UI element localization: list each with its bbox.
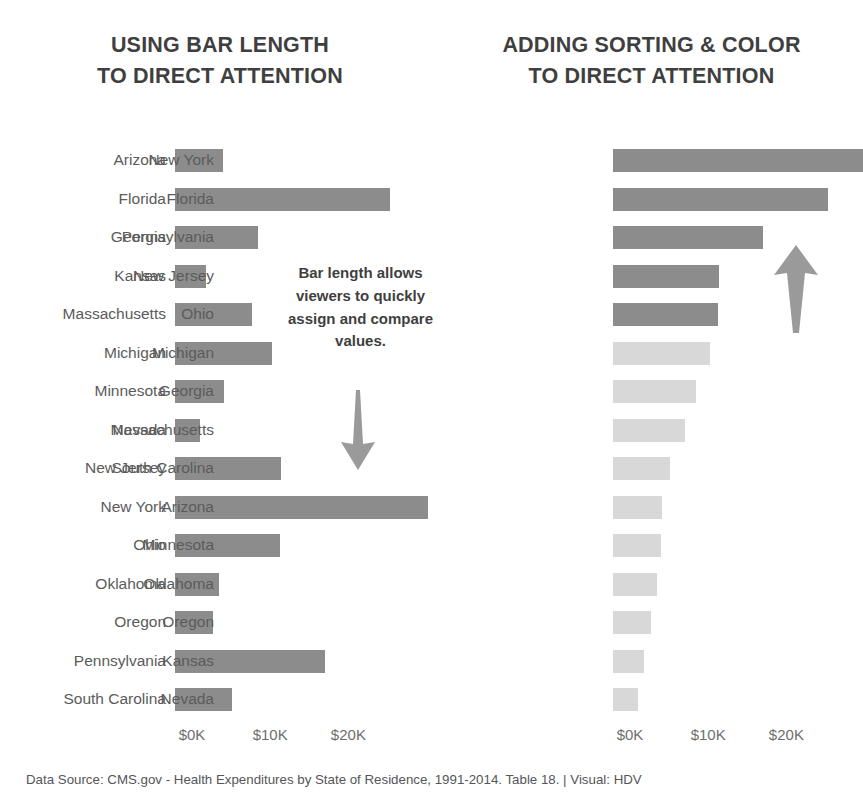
bar-category-label-arizona: Arizona [48, 488, 214, 527]
bar-category-label-kansas: Kansas [48, 642, 214, 681]
bar-florida [613, 188, 828, 211]
annotation-left-line2: viewers to quickly [278, 285, 443, 308]
x-axis-left: $0K$10K$20K [0, 726, 440, 752]
bar-row: Florida [440, 180, 863, 219]
bar-ohio [613, 303, 718, 326]
x-tick-left-0: $0K [179, 726, 206, 743]
bar-category-label-new-jersey: New Jersey [48, 257, 214, 296]
bar-category-label-ohio: Ohio [48, 295, 214, 334]
x-tick-right-0: $0K [617, 726, 644, 743]
bar-georgia [613, 380, 696, 403]
x-tick-right-1: $10K [691, 726, 726, 743]
annotation-left-line1: Bar length allows [278, 262, 443, 285]
bar-category-label-florida: Florida [48, 180, 214, 219]
x-tick-right-2: $20K [769, 726, 804, 743]
chart-title-left-line2: TO DIRECT ATTENTION [0, 61, 440, 92]
bar-category-label-nevada: Nevada [48, 680, 214, 719]
bar-arizona [613, 496, 662, 519]
arrow-up-icon [768, 243, 824, 335]
bar-row: Oklahoma [440, 565, 863, 604]
bar-category-label-minnesota: Minnesota [48, 526, 214, 565]
chart-title-left: USING BAR LENGTH TO DIRECT ATTENTION [0, 30, 440, 91]
bar-row: Massachusetts [440, 411, 863, 450]
bar-row: Nevada [440, 680, 863, 719]
chart-title-left-line1: USING BAR LENGTH [0, 30, 440, 61]
x-axis-right: $0K$10K$20K [440, 726, 863, 752]
bar-row: Michigan [440, 334, 863, 373]
bar-chart-right: New YorkFloridaPennsylvaniaNew JerseyOhi… [440, 141, 863, 721]
bar-row: Arizona [440, 488, 863, 527]
bar-nevada [613, 688, 638, 711]
annotation-left: Bar length allows viewers to quickly ass… [278, 262, 443, 353]
bar-oregon [613, 611, 651, 634]
bar-category-label-massachusetts: Massachusetts [48, 411, 214, 450]
bar-category-label-georgia: Georgia [48, 372, 214, 411]
bar-category-label-oregon: Oregon [48, 603, 214, 642]
bar-minnesota [613, 534, 661, 557]
bar-row: Georgia [440, 372, 863, 411]
bar-row: Oregon [440, 603, 863, 642]
bar-oklahoma [613, 573, 657, 596]
bar-massachusetts [613, 419, 685, 442]
bar-category-label-oklahoma: Oklahoma [48, 565, 214, 604]
bar-kansas [613, 650, 644, 673]
bar-category-label-pennsylvania: Pennsylvania [48, 218, 214, 257]
chart-title-right-line1: ADDING SORTING & COLOR [440, 30, 863, 61]
arrow-down-icon [330, 388, 386, 472]
bar-category-label-new-york: New York [48, 141, 214, 180]
bar-row: South Carolina [440, 449, 863, 488]
bar-new-jersey [613, 265, 719, 288]
bar-michigan [613, 342, 710, 365]
bar-category-label-michigan: Michigan [48, 334, 214, 373]
annotation-left-line4: values. [278, 330, 443, 353]
bar-south-carolina [613, 457, 670, 480]
chart-title-right-line2: TO DIRECT ATTENTION [440, 61, 863, 92]
bar-row: New York [440, 141, 863, 180]
bar-new-york [613, 149, 863, 172]
x-tick-left-1: $10K [253, 726, 288, 743]
source-footnote: Data Source: CMS.gov - Health Expenditur… [26, 772, 642, 787]
annotation-left-line3: assign and compare [278, 308, 443, 331]
chart-title-right: ADDING SORTING & COLOR TO DIRECT ATTENTI… [440, 30, 863, 91]
panel-right: ADDING SORTING & COLOR TO DIRECT ATTENTI… [440, 0, 863, 801]
bar-pennsylvania [613, 226, 763, 249]
bar-row: Minnesota [440, 526, 863, 565]
bar-category-label-south-carolina: South Carolina [48, 449, 214, 488]
bar-row: Kansas [440, 642, 863, 681]
x-tick-left-2: $20K [331, 726, 366, 743]
